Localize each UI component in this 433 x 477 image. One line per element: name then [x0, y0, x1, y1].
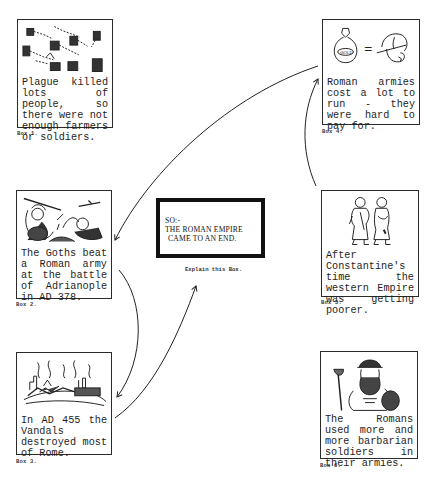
roman-figure-left-icon [349, 198, 369, 245]
box-2: The Goths beat a Roman army at the battl… [16, 190, 112, 299]
conclusion-line-1: SO:- [165, 216, 243, 225]
conclusion-line-2: THE ROMAN EMPIRE [165, 225, 243, 234]
box-3-label: Box 3. [16, 458, 37, 465]
box-4-label: Box 4. [322, 128, 343, 135]
box-1-label: Box 1. [17, 130, 38, 137]
box-5-label: Box 5. [321, 299, 342, 306]
barbarian-soldier-illustration [324, 355, 414, 413]
box-5: After Constantine's time the western Emp… [321, 190, 419, 297]
arrow-box2-to-box3 [117, 270, 138, 397]
conclusion-text: SO:- THE ROMAN EMPIRE CAME TO AN END. [165, 216, 243, 243]
gold-bag-icon: GOLD [334, 28, 357, 62]
box-5-caption: After Constantine's time the western Emp… [326, 250, 414, 316]
box-4: GOLD = Roman armies cost a lot to run - … [322, 19, 420, 125]
svg-text:GOLD: GOLD [340, 50, 352, 55]
box-6-label: Box 6. [320, 462, 341, 469]
burning-city-illustration [20, 356, 108, 412]
arrow-box5-to-box4 [305, 79, 318, 186]
box-3-caption: In AD 455 the Vandals destroyed most of … [21, 415, 107, 459]
conclusion-box: SO:- THE ROMAN EMPIRE CAME TO AN END. [156, 198, 265, 258]
box-4-caption: Roman armies cost a lot to run - they we… [327, 77, 415, 132]
goth-warrior-illustration [20, 194, 108, 246]
conclusion-line-3: CAME TO AN END. [165, 234, 243, 243]
svg-text:=: = [364, 41, 372, 56]
box-2-label: Box 2. [16, 301, 37, 308]
two-ragged-romans-illustration [325, 194, 415, 248]
roman-figure-right-icon [374, 198, 391, 245]
box-6: The Romans used more and more barbarian … [320, 351, 418, 459]
helmet-icon [377, 34, 407, 62]
box-3: In AD 455 the Vandals destroyed most of … [16, 352, 112, 455]
arrow-box3-to-center [115, 286, 196, 418]
box-2-caption: The Goths beat a Roman army at the battl… [21, 248, 107, 303]
plague-gravestones-illustration [21, 23, 109, 75]
explain-note: Explain this Box. [185, 266, 242, 273]
box-6-caption: The Romans used more and more barbarian … [325, 414, 413, 469]
box-1: Plague killed lots of people, so there w… [17, 19, 113, 128]
gold-bag-helmet-illustration: GOLD = [326, 23, 416, 71]
gravestones-icon [21, 23, 109, 75]
